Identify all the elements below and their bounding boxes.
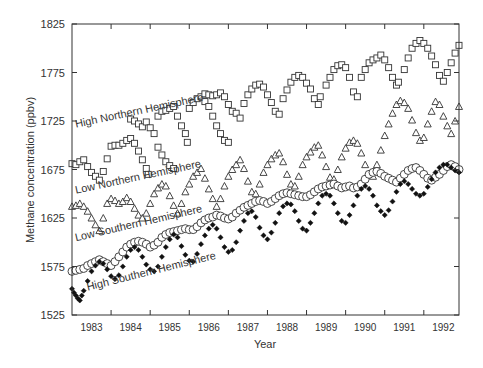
data-point (389, 110, 396, 117)
data-point (444, 70, 450, 76)
data-point (184, 139, 190, 145)
data-point (273, 220, 278, 225)
data-point (257, 225, 262, 230)
data-point (276, 111, 282, 117)
x-tick-label: 1987 (237, 322, 260, 333)
data-point (354, 94, 360, 100)
data-point (311, 96, 317, 102)
data-point (284, 171, 291, 178)
data-point (139, 157, 145, 163)
data-point (323, 82, 329, 88)
data-point (179, 244, 184, 249)
y-tick-label: 1775 (41, 67, 65, 79)
data-point (131, 205, 138, 212)
data-point (319, 151, 326, 158)
data-point (381, 132, 388, 139)
data-point (395, 79, 401, 85)
y-tick-label: 1525 (41, 309, 65, 321)
data-point (374, 203, 379, 208)
data-point (390, 199, 395, 204)
data-point (260, 169, 267, 176)
data-point (343, 65, 349, 71)
y-tick-label: 1575 (41, 261, 65, 273)
data-point (218, 235, 223, 240)
data-point (452, 50, 458, 56)
data-point (198, 242, 203, 247)
data-point (299, 161, 306, 168)
data-point (234, 240, 239, 245)
data-point (366, 186, 371, 191)
data-point (225, 102, 231, 108)
data-point (159, 152, 165, 158)
data-point (186, 181, 193, 188)
data-point (448, 60, 454, 66)
data-point (280, 158, 287, 165)
data-point (175, 235, 180, 240)
data-point (428, 108, 435, 115)
data-point (213, 203, 220, 210)
data-point (269, 230, 274, 235)
data-point (316, 201, 321, 206)
data-point (135, 148, 141, 154)
data-point (444, 122, 451, 129)
data-point (331, 201, 336, 206)
data-point (358, 74, 364, 80)
data-point (147, 125, 153, 131)
data-point (406, 181, 411, 186)
data-point (237, 115, 243, 121)
data-point (217, 195, 224, 202)
data-point (390, 74, 396, 80)
data-point (88, 215, 95, 222)
data-point (394, 189, 399, 194)
data-point (201, 175, 208, 182)
data-point (347, 74, 353, 80)
data-point (284, 87, 290, 93)
data-point (276, 150, 283, 157)
data-point (362, 67, 368, 73)
data-point (81, 288, 86, 293)
data-point (425, 45, 431, 51)
data-point (373, 161, 380, 168)
data-point (225, 173, 232, 180)
data-point (308, 220, 313, 225)
data-point (280, 96, 286, 102)
data-point (300, 74, 306, 80)
data-point (205, 185, 212, 192)
data-point (264, 92, 270, 98)
data-point (295, 173, 302, 180)
data-point (315, 102, 321, 108)
data-point (140, 254, 145, 259)
data-point (315, 142, 322, 149)
data-point (433, 62, 439, 68)
data-point (218, 131, 224, 137)
x-tick-label: 1992 (432, 322, 455, 333)
x-tick-label: 1985 (159, 322, 182, 333)
data-point (147, 200, 154, 207)
x-tick-label: 1986 (198, 322, 221, 333)
data-point (221, 94, 227, 100)
data-point (241, 165, 248, 172)
data-point (120, 264, 125, 269)
data-point (163, 245, 168, 250)
y-tick-label: 1825 (41, 18, 65, 30)
x-tick-label: 1984 (120, 322, 143, 333)
data-point (335, 211, 340, 216)
data-point (237, 228, 242, 233)
methane-chart: High Northern HemisphereLow Northern Hem… (0, 0, 483, 368)
data-point (377, 147, 384, 154)
data-point (241, 218, 246, 223)
data-point (420, 134, 427, 141)
data-point (382, 57, 388, 63)
data-point (327, 74, 333, 80)
data-point (378, 209, 383, 214)
data-point (355, 193, 360, 198)
data-point (424, 120, 431, 127)
data-point (323, 163, 330, 170)
data-point (280, 204, 285, 209)
series-label: High Southern Hemisphere (85, 249, 217, 293)
data-point (136, 247, 141, 252)
data-point (100, 168, 106, 174)
data-point (253, 214, 258, 219)
data-point (358, 150, 365, 157)
data-point (182, 188, 189, 195)
